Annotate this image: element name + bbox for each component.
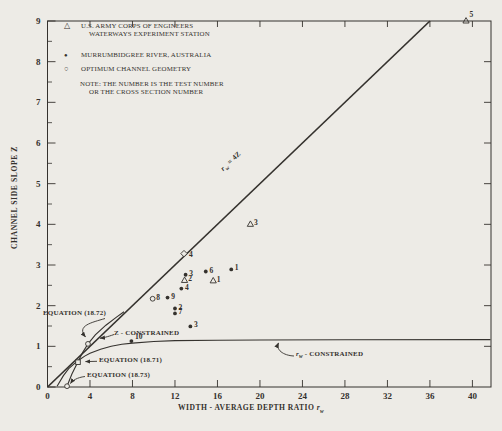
x-tick-label: 36 [425, 391, 435, 401]
x-tick-label: 28 [340, 391, 350, 401]
filled-circle-marker [179, 287, 183, 291]
data-point-label: 4 [189, 250, 193, 259]
data-point-label: 3 [194, 320, 198, 329]
y-tick-label: 4 [36, 219, 41, 229]
legend-item-label: U.S. ARMY CORPS OF ENGINEERS WATERWAYS E… [81, 22, 210, 38]
annotation-equation-18-72: EQUATION (18.72) [43, 309, 106, 317]
y-tick-label: 5 [36, 179, 41, 189]
reference-line [48, 21, 430, 387]
open-triangle-marker [463, 18, 469, 23]
data-point-label: 9 [171, 292, 175, 301]
y-tick-label: 2 [36, 301, 41, 311]
x-axis-symbol-sub: w [320, 408, 324, 414]
filled-circle-marker [204, 270, 208, 274]
x-tick-label: 12 [170, 391, 180, 401]
y-tick-label: 3 [36, 260, 41, 270]
note-line-2: OR THE CROSS SECTION NUMBER [80, 88, 224, 96]
data-point-label: 1 [235, 263, 239, 272]
filled-circle-icon: ● [64, 51, 81, 59]
data-point-label: 8 [156, 293, 160, 302]
open-circle-icon: ○ [64, 65, 81, 73]
x-tick-label: 32 [383, 391, 393, 401]
y-tick-label: 1 [36, 341, 41, 351]
x-tick-label: 24 [298, 391, 308, 401]
data-point-label: 7 [179, 307, 183, 316]
chart-figure: 0481216202428323640012345678912351233467… [0, 0, 502, 431]
x-tick-label: 20 [255, 391, 265, 401]
x-tick-label: 0 [45, 391, 50, 401]
legend-item-optimum: ○ OPTIMUM CHANNEL GEOMETRY [64, 65, 191, 73]
legend-item-corps: △ U.S. ARMY CORPS OF ENGINEERS WATERWAYS… [64, 22, 210, 38]
data-point-label: 6 [209, 266, 213, 275]
open-triangle-icon: △ [64, 22, 81, 30]
data-point-label: 3 [189, 269, 193, 278]
x-tick-label: 16 [213, 391, 223, 401]
legend-line: WATERWAYS EXPERIMENT STATION [81, 30, 210, 37]
legend-line: OPTIMUM CHANNEL GEOMETRY [81, 65, 191, 73]
callout-arrow [71, 377, 86, 384]
legend-item-river: ● MURRUMBIDGREE RIVER, AUSTRALIA [64, 51, 211, 59]
annotation-z-constrained: Z - CONSTRAINED [114, 329, 179, 337]
data-point-label: 3 [254, 218, 258, 227]
data-point-label: 1 [217, 275, 221, 284]
open-circle-marker [65, 384, 70, 389]
filled-circle-marker [188, 325, 192, 329]
filled-circle-marker [173, 311, 177, 315]
open-triangle-marker [210, 277, 216, 282]
open-square-marker [76, 360, 81, 365]
filled-circle-marker [229, 268, 233, 272]
x-axis-title: WIDTH - AVERAGE DEPTH RATIO rw [178, 403, 324, 414]
filled-circle-marker [173, 307, 177, 311]
filled-circle-marker [166, 296, 170, 300]
data-point-label: 5 [470, 10, 474, 19]
filled-circle-marker [184, 273, 188, 277]
x-tick-label: 40 [468, 391, 478, 401]
open-triangle-marker [247, 221, 253, 226]
x-axis-title-text: WIDTH - AVERAGE DEPTH RATIO [178, 403, 317, 412]
y-tick-label: 7 [36, 97, 41, 107]
callout-arrow [278, 343, 294, 356]
data-point-label: 4 [185, 283, 189, 292]
y-tick-label: 0 [36, 382, 41, 392]
legend-note: NOTE: THE NUMBER IS THE TEST NUMBER OR T… [80, 80, 224, 96]
y-axis-title: CHANNEL SIDE SLOPE Z [10, 146, 19, 249]
note-line-1: NOTE: THE NUMBER IS THE TEST NUMBER [80, 80, 224, 88]
annotation-equation-18-71: EQUATION (18.71) [99, 356, 162, 364]
annotation-equation-18-73: EQUATION (18.73) [87, 371, 150, 379]
y-tick-label: 6 [36, 138, 41, 148]
legend-line: MURRUMBIDGREE RIVER, AUSTRALIA [81, 51, 211, 59]
y-tick-label: 9 [36, 16, 41, 26]
rw-label-suffix: - CONSTRAINED [303, 350, 363, 358]
x-tick-label: 4 [88, 391, 93, 401]
x-tick-label: 8 [130, 391, 135, 401]
annotation-rw-constrained: rw - CONSTRAINED [296, 350, 363, 359]
legend-line: U.S. ARMY CORPS OF ENGINEERS [81, 22, 193, 29]
open-circle-marker [86, 341, 91, 346]
filled-circle-marker [130, 339, 134, 343]
open-circle-marker [150, 296, 155, 301]
y-tick-label: 8 [36, 57, 41, 67]
open-diamond-marker [181, 250, 187, 256]
